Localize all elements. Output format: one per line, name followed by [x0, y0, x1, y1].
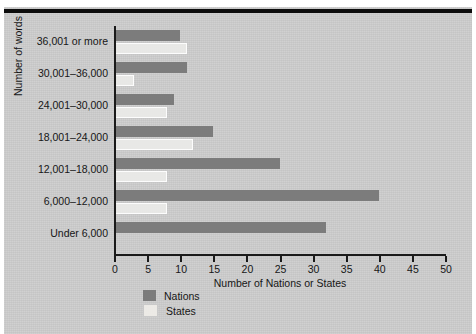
x-tick-5 [147, 256, 149, 262]
x-tick-45 [412, 256, 414, 262]
bar-nations-3 [114, 94, 174, 105]
x-tick-15 [213, 256, 215, 262]
x-tick-label-50: 50 [426, 263, 466, 275]
bar-nations-5 [114, 158, 280, 169]
bar-states-2 [114, 75, 134, 86]
bar-states-5 [114, 171, 167, 182]
plot-area [114, 26, 445, 250]
bar-states-1 [114, 43, 187, 54]
category-label-4: 18,001–24,000 [0, 131, 108, 143]
x-tick-25 [280, 256, 282, 262]
chart-legend: NationsStates [143, 288, 200, 318]
x-tick-0 [114, 256, 116, 262]
x-tick-20 [246, 256, 248, 262]
category-label-7: Under 6,000 [0, 227, 108, 239]
x-tick-35 [346, 256, 348, 262]
bar-nations-1 [114, 30, 180, 41]
x-tick-30 [313, 256, 315, 262]
legend-swatch-states-icon [143, 304, 158, 317]
x-tick-40 [379, 256, 381, 262]
legend-swatch-nations-icon [143, 290, 156, 301]
category-label-5: 12,001–18,000 [0, 163, 108, 175]
top-horizontal-rule [4, 9, 472, 13]
x-tick-10 [180, 256, 182, 262]
bar-nations-4 [114, 126, 213, 137]
category-label-6: 6,000–12,000 [0, 195, 108, 207]
bar-states-6 [114, 203, 167, 214]
bar-nations-6 [114, 190, 379, 201]
bar-nations-7 [114, 222, 326, 233]
chart-figure: 36,001 or more30,001–36,00024,001–30,000… [0, 0, 476, 334]
legend-label-states: States [166, 305, 196, 317]
legend-item-nations: Nations [143, 288, 200, 303]
category-label-3: 24,001–30,000 [0, 99, 108, 111]
y-axis-line [114, 26, 116, 256]
bar-states-4 [114, 139, 193, 150]
x-tick-50 [445, 256, 447, 262]
y-axis-title: Number of words [12, 16, 24, 96]
legend-item-states: States [143, 303, 200, 318]
bar-states-3 [114, 107, 167, 118]
legend-label-nations: Nations [164, 290, 200, 302]
bar-nations-2 [114, 62, 187, 73]
